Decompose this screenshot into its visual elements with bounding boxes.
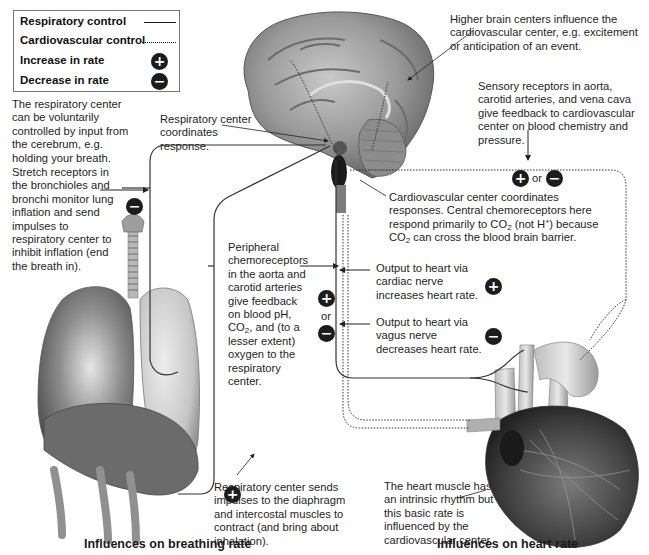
or-label: or: [321, 310, 331, 323]
plus-icon: +: [512, 170, 529, 187]
brain-illustration: [244, 12, 434, 213]
legend-dotted-line: [142, 42, 176, 43]
voluntary-control-note: The respiratory center can be voluntaril…: [12, 98, 137, 165]
or-label: or: [532, 172, 542, 185]
cardio-line-3e: ) because: [549, 218, 598, 230]
minus-icon: −: [485, 328, 502, 345]
heart-rate-title: Influences on heart rate: [437, 537, 578, 551]
legend-respiratory-label: Respiratory control: [20, 15, 126, 27]
plus-icon: +: [318, 290, 335, 307]
legend-solid-line: [144, 22, 176, 23]
minus-icon: −: [546, 170, 563, 187]
cardio-line-4: CO2 can cross the blood brain barrier.: [389, 231, 649, 244]
breathing-rate-title: Influences on breathing rate: [84, 537, 251, 551]
plus-icon: +: [485, 278, 502, 295]
vagus-nerve-note: Output to heart via vagus nerve decrease…: [376, 316, 486, 356]
cardio-line-4c: can cross the blood brain barrier.: [410, 231, 576, 243]
sensory-receptors-note: Sensory receptors in aorta, carotid arte…: [478, 80, 648, 147]
cardio-line-4a: CO: [389, 231, 406, 243]
minus-icon: −: [126, 198, 143, 215]
plus-icon: +: [151, 53, 168, 70]
legend-cardiovascular-label: Cardiovascular control: [20, 34, 145, 46]
cardio-line-3a: respond primarily to CO: [389, 218, 507, 230]
legend: Respiratory control Cardiovascular contr…: [13, 10, 180, 92]
legend-decrease-label: Decrease in rate: [20, 74, 109, 86]
cardio-line-1: Cardiovascular center coordinates: [389, 191, 649, 204]
minus-icon: −: [318, 325, 335, 342]
cardiac-nerve-note: Output to heart via cardiac nerve increa…: [376, 262, 486, 302]
peripheral-chemoreceptors-note: Peripheral chemoreceptors in the aorta a…: [228, 241, 310, 388]
legend-increase-label: Increase in rate: [20, 54, 104, 66]
minus-icon: −: [151, 73, 168, 90]
peripheral-text-a: Peripheral chemoreceptors in the aorta a…: [228, 241, 308, 333]
cardio-line-3c: (not H: [512, 218, 546, 230]
cardio-line-2: responses. Central chemoreceptors here: [389, 204, 649, 217]
cardiovascular-center-note: Cardiovascular center coordinates respon…: [389, 191, 649, 245]
higher-brain-note: Higher brain centers influence the cardi…: [450, 13, 640, 53]
stretch-receptors-note: Stretch receptors in the bronchioles and…: [12, 166, 117, 273]
respiratory-center-note: Respiratory center coordinates response.: [160, 113, 270, 153]
cardio-line-3: respond primarily to CO2 (not H+) becaus…: [389, 218, 649, 231]
